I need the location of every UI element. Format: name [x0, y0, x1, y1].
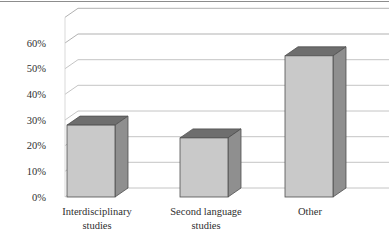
x-category-label-0-line-1: studies — [82, 220, 111, 231]
y-tick-label-50: 50% — [27, 63, 47, 74]
bar-front-face-1 — [180, 138, 228, 197]
bar-column-2[interactable] — [285, 47, 346, 197]
x-category-label-2-line-0: Other — [298, 206, 322, 217]
depth-connector-50 — [65, 60, 78, 69]
bar-column-1[interactable] — [180, 129, 241, 197]
x-category-label-1-line-0: Second language — [170, 206, 242, 217]
y-tick-label-60: 60% — [27, 38, 47, 49]
bar-side-face-1 — [228, 129, 241, 197]
y-tick-label-30: 30% — [27, 115, 47, 126]
x-axis-category-labels: Interdisciplinary studies Second languag… — [62, 206, 322, 231]
depth-connector-top — [65, 8, 78, 17]
bar-column-0[interactable] — [67, 116, 128, 197]
y-tick-label-10: 10% — [27, 166, 47, 177]
x-category-label-0-line-0: Interdisciplinary — [62, 206, 132, 217]
bar-side-face-0 — [115, 116, 128, 197]
x-category-label-1-line-1: studies — [191, 220, 220, 231]
chart-canvas: 0% 10% 20% 30% 40% 50% 60% — [0, 0, 389, 248]
depth-connector-40 — [65, 85, 78, 94]
bar-front-face-0 — [67, 125, 115, 197]
y-axis-tick-labels: 0% 10% 20% 30% 40% 50% 60% — [27, 38, 47, 203]
bar-side-face-2 — [333, 47, 346, 197]
y-tick-label-40: 40% — [27, 89, 47, 100]
bar-chart-figure: 0% 10% 20% 30% 40% 50% 60% — [0, 0, 389, 248]
y-tick-label-0: 0% — [32, 192, 46, 203]
y-tick-label-20: 20% — [27, 140, 47, 151]
bar-front-face-2 — [285, 56, 333, 197]
depth-connector-60 — [65, 34, 78, 43]
